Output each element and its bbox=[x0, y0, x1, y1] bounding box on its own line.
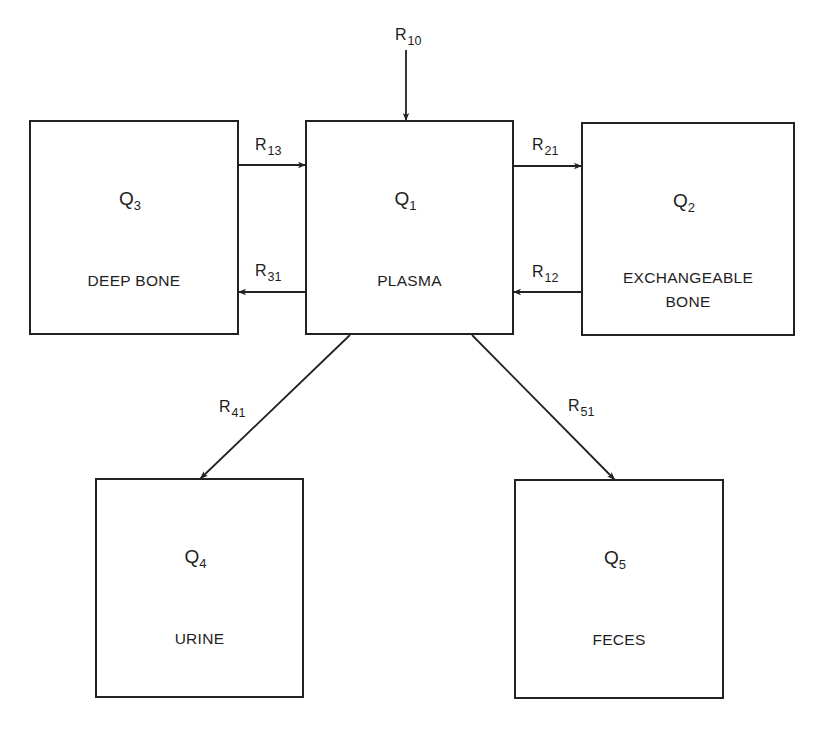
flow-r13: R13 bbox=[238, 136, 306, 165]
compartment-model-diagram: R10R13R31R21R12R41R51 Q1PLASMAQ2EXCHANGE… bbox=[0, 0, 831, 729]
compartment-subscript: 4 bbox=[199, 556, 206, 571]
flow-rate-subscript: 51 bbox=[581, 405, 595, 419]
compartment-name: EXCHANGEABLE bbox=[623, 269, 753, 286]
flow-r31: R31 bbox=[238, 262, 306, 292]
compartments-layer: Q1PLASMAQ2EXCHANGEABLEBONEQ3DEEP BONEQ4U… bbox=[30, 121, 794, 698]
compartment-name: FECES bbox=[592, 631, 645, 648]
compartment-plasma: Q1PLASMA bbox=[306, 121, 513, 334]
compartment-name: URINE bbox=[175, 630, 225, 647]
compartment-name: BONE bbox=[665, 293, 710, 310]
compartment-name: DEEP BONE bbox=[88, 272, 181, 289]
flow-rate-subscript: 12 bbox=[545, 271, 559, 285]
flow-rate-subscript: 21 bbox=[545, 144, 559, 158]
flow-rate-subscript: 13 bbox=[268, 144, 282, 158]
compartment-box bbox=[515, 480, 723, 698]
compartment-subscript: 1 bbox=[409, 198, 416, 213]
compartment-box bbox=[96, 479, 303, 697]
compartment-urine: Q4URINE bbox=[96, 479, 303, 697]
flow-rate-subscript: 41 bbox=[232, 406, 246, 420]
flow-r10: R10 bbox=[395, 26, 422, 121]
compartment-exchangeable-bone: Q2EXCHANGEABLEBONE bbox=[582, 123, 794, 335]
flow-r12: R12 bbox=[513, 263, 582, 292]
flow-rate-label: R31 bbox=[255, 262, 282, 284]
compartment-box bbox=[30, 121, 238, 334]
compartment-subscript: 5 bbox=[619, 557, 626, 572]
flow-rate-label: R21 bbox=[532, 136, 559, 158]
flow-r41: R41 bbox=[200, 335, 350, 479]
compartment-deep-bone: Q3DEEP BONE bbox=[30, 121, 238, 334]
flow-rate-subscript: 10 bbox=[408, 34, 422, 48]
flow-rate-label: R13 bbox=[255, 136, 282, 158]
flow-rate-label: R10 bbox=[395, 26, 422, 48]
compartment-box bbox=[306, 121, 513, 334]
flow-rate-label: R41 bbox=[219, 398, 246, 420]
compartment-subscript: 3 bbox=[134, 198, 141, 213]
flow-rate-subscript: 31 bbox=[268, 270, 282, 284]
flow-rate-label: R51 bbox=[568, 397, 595, 419]
compartment-feces: Q5FECES bbox=[515, 480, 723, 698]
compartment-subscript: 2 bbox=[688, 200, 695, 215]
compartment-name: PLASMA bbox=[377, 272, 442, 289]
flow-r21: R21 bbox=[513, 136, 582, 166]
flow-r51: R51 bbox=[472, 335, 615, 480]
flow-rate-label: R12 bbox=[532, 263, 559, 285]
